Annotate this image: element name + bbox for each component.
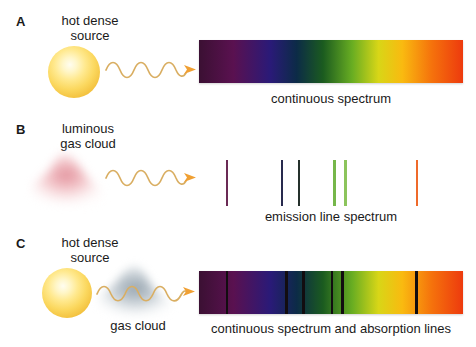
violet-absorption	[226, 271, 228, 314]
violet-line	[226, 160, 228, 206]
spectroscopy-diagram: A hot dense source continuous spectrum B…	[0, 0, 476, 347]
panel-c-caption: continuous spectrum and absorption lines	[186, 321, 476, 336]
emission-line-spectrum	[199, 160, 463, 206]
green-absorption-1	[331, 271, 333, 314]
blue-green-absorption	[302, 271, 305, 314]
panel-b-source-label: luminous gas cloud	[36, 121, 140, 151]
orange-line	[416, 160, 418, 206]
panel-b-caption: emission line spectrum	[199, 209, 463, 224]
green-line-2	[344, 160, 347, 206]
panel-c-cloud-label: gas cloud	[92, 318, 184, 333]
absorption-line-overlay	[199, 271, 463, 314]
blue-green-line	[298, 160, 300, 206]
light-ray-wave-icon-a	[105, 56, 197, 80]
orange-absorption	[415, 271, 418, 314]
green-line-1	[333, 160, 336, 206]
panel-a-caption: continuous spectrum	[199, 91, 463, 106]
continuous-spectrum-bar	[199, 40, 463, 83]
indigo-line	[281, 160, 283, 206]
indigo-absorption	[285, 271, 288, 314]
light-ray-wave-icon-b	[105, 164, 197, 188]
green-absorption-2	[341, 271, 344, 314]
panel-letter-c: C	[16, 236, 25, 251]
hot-dense-source-icon-c	[42, 268, 92, 318]
hot-dense-source-icon-a	[48, 46, 100, 98]
panel-letter-a: A	[16, 14, 25, 29]
panel-a-source-label: hot dense source	[42, 13, 138, 43]
light-ray-wave-icon-c	[96, 278, 196, 302]
panel-letter-b: B	[16, 122, 25, 137]
panel-c-source-label: hot dense source	[42, 235, 138, 265]
